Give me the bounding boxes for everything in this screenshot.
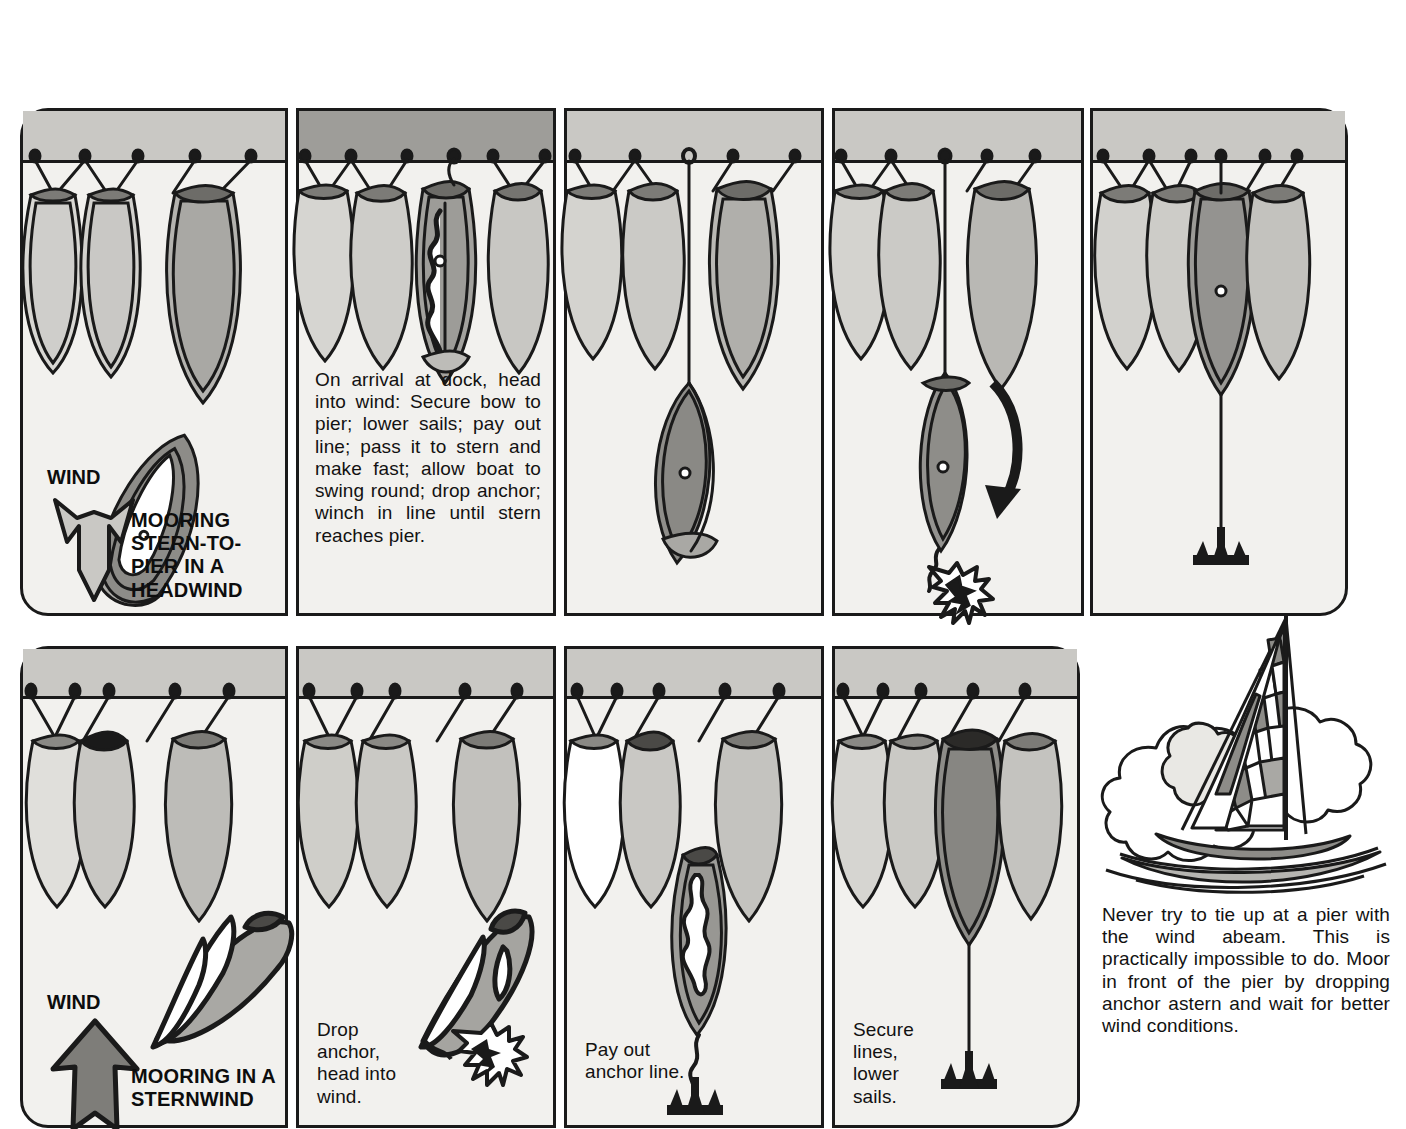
panel-8: Pay out anchor line.	[564, 646, 824, 1128]
boat-top-view-icon	[81, 189, 140, 377]
anchor-icon	[1193, 527, 1249, 565]
boat-top-view-icon	[294, 185, 354, 361]
wind-label-6: WIND	[47, 991, 100, 1014]
mooring-post-icon	[26, 684, 234, 698]
panel-1-title: MOORING STERN-TO- PIER IN A HEADWIND	[131, 509, 243, 602]
mooring-post-icon	[570, 149, 800, 163]
boat-moored-icon	[935, 730, 1004, 1063]
sidebar-caption: Never try to tie up at a pier with the w…	[1102, 904, 1390, 1037]
boat-top-view-icon	[879, 184, 940, 370]
diagram-stage: WIND MOORING STERN-TO- PIER IN A HEADWIN…	[0, 0, 1406, 1129]
boat-top-view-icon	[564, 735, 624, 907]
panel-6: WIND MOORING IN A STERNWIND	[20, 646, 288, 1128]
boat-top-view-icon	[356, 735, 416, 907]
boat-top-view-icon	[351, 186, 412, 370]
panel-9-caption: Secure lines, lower sails.	[853, 1019, 983, 1108]
boat-top-view-icon	[23, 189, 82, 373]
curved-rotation-arrow-icon	[985, 383, 1021, 519]
boat-top-view-icon	[165, 732, 231, 922]
mooring-post-icon	[572, 684, 784, 698]
splash-burst-icon	[453, 1023, 527, 1085]
panel-4-artwork	[835, 111, 1081, 613]
boat-top-view-icon	[562, 185, 622, 359]
mooring-post-icon	[1098, 150, 1302, 162]
panel-2-caption: On arrival at dock, head into wind: Secu…	[315, 369, 541, 547]
panel-1: WIND MOORING STERN-TO- PIER IN A HEADWIN…	[20, 108, 288, 616]
panel-3-artwork	[567, 111, 821, 613]
arrow-down-icon	[49, 496, 139, 606]
panel-6-title: MOORING IN A STERNWIND	[131, 1065, 276, 1111]
mooring-post-icon	[30, 150, 256, 162]
boat-top-view-icon	[1247, 186, 1310, 380]
boat-with-sail-icon	[416, 159, 475, 383]
boat-top-view-icon	[832, 735, 892, 907]
panel-3	[564, 108, 824, 616]
panel-7: Drop anchor, head into wind.	[296, 646, 556, 1128]
boat-moored-icon	[1188, 161, 1255, 545]
boat-top-view-icon	[167, 186, 241, 404]
mooring-post-icon	[300, 149, 550, 163]
boat-top-view-icon	[488, 184, 548, 374]
panel-7-caption: Drop anchor, head into wind.	[317, 1019, 437, 1108]
boat-top-view-icon	[298, 735, 358, 907]
panel-5-artwork	[1093, 111, 1345, 613]
panel-2-artwork	[299, 111, 553, 411]
boat-top-view-icon	[623, 184, 684, 370]
mooring-post-icon	[304, 684, 522, 698]
boat-top-view-icon	[453, 732, 519, 922]
boat-top-view-icon	[999, 734, 1062, 920]
sailboat-in-clouds-illustration	[1096, 608, 1396, 898]
panel-8-caption: Pay out anchor line.	[585, 1039, 765, 1083]
sailboat-angled-icon	[141, 899, 301, 1079]
boat-swung-icon	[655, 383, 717, 563]
mooring-post-icon	[836, 149, 1040, 163]
splash-burst-icon	[929, 563, 993, 623]
panel-5	[1090, 108, 1348, 616]
boat-swinging-icon	[920, 373, 969, 591]
boat-top-view-icon	[74, 732, 134, 907]
wind-label-1: WIND	[47, 466, 100, 489]
mooring-post-icon	[838, 684, 1030, 698]
boat-top-view-icon	[967, 182, 1036, 390]
boat-top-view-icon	[709, 182, 778, 390]
boat-top-view-icon	[620, 732, 680, 907]
panel-4	[832, 108, 1084, 616]
panel-9: Secure lines, lower sails.	[832, 646, 1080, 1128]
panel-2: On arrival at dock, head into wind: Secu…	[296, 108, 556, 616]
